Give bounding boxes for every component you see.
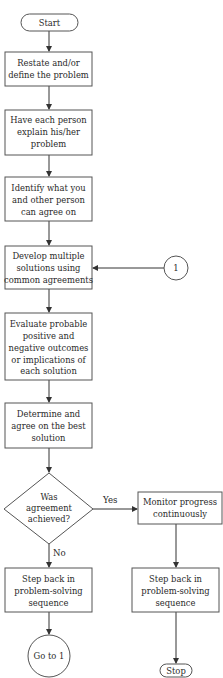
node-stop: Stop <box>160 664 192 677</box>
node-text-line: Step back in <box>149 574 203 584</box>
node-evaluate: Evaluate probable positive and negative … <box>5 313 92 380</box>
node-determine: Determine and agree on the best solution <box>5 403 92 448</box>
node-text-line: and other person <box>12 195 85 205</box>
node-restate: Restate and/or define the problem <box>5 52 92 86</box>
node-explain: Have each person explain his/her problem <box>5 110 92 155</box>
node-text-line: Step back in <box>22 574 76 584</box>
node-text-line: solution <box>32 433 66 443</box>
node-identify: Identify what you and other person can a… <box>5 177 92 221</box>
node-text-line: solutions using <box>17 263 82 273</box>
flowchart: Start Restate and/or define the problem … <box>0 0 223 678</box>
start-label: Start <box>39 18 61 28</box>
node-text-line: explain his/her <box>17 127 80 137</box>
node-text-line: problem-solving <box>141 586 210 596</box>
node-connector-1: 1 <box>164 256 188 280</box>
node-monitor: Monitor progress continuously <box>138 492 222 524</box>
node-text-line: Determine and <box>17 409 81 419</box>
node-text-line: Was <box>40 492 57 502</box>
node-text-line: define the problem <box>8 70 89 80</box>
node-text-line: Develop multiple <box>12 251 84 261</box>
connector-label: 1 <box>173 263 178 273</box>
node-text-line: negative outcomes <box>9 343 89 353</box>
stop-label: Stop <box>166 666 186 676</box>
node-text-line: achieved? <box>28 514 71 524</box>
node-text-line: agreement <box>26 503 73 513</box>
node-step-back-no: Step back in problem-solving sequence <box>5 568 92 612</box>
node-text-line: common agreements <box>4 275 93 285</box>
node-text-line: Identify what you <box>11 183 86 193</box>
node-text-line: problem <box>31 139 66 149</box>
node-step-back-yes: Step back in problem-solving sequence <box>132 568 219 612</box>
node-start: Start <box>21 14 78 31</box>
node-text-line: continuously <box>153 509 207 519</box>
node-text-line: positive and <box>23 331 75 341</box>
node-text-line: can agree on <box>21 207 77 217</box>
node-text-line: each solution <box>20 366 77 376</box>
goto-label: Go to 1 <box>34 651 65 661</box>
node-text-line: Evaluate probable <box>10 319 88 329</box>
node-text-line: Restate and/or <box>17 58 80 68</box>
node-develop: Develop multiple solutions using common … <box>4 246 93 289</box>
node-text-line: or implications of <box>11 355 86 365</box>
node-decision: Was agreement achieved? <box>4 473 93 544</box>
node-goto-1: Go to 1 <box>28 635 70 677</box>
node-text-line: problem-solving <box>14 586 83 596</box>
yes-label: Yes <box>102 495 117 505</box>
node-text-line: Have each person <box>10 115 87 125</box>
node-text-line: sequence <box>155 598 195 608</box>
node-text-line: Monitor progress <box>143 497 217 507</box>
no-label: No <box>53 548 66 558</box>
node-text-line: sequence <box>28 598 68 608</box>
node-text-line: agree on the best <box>11 421 86 431</box>
